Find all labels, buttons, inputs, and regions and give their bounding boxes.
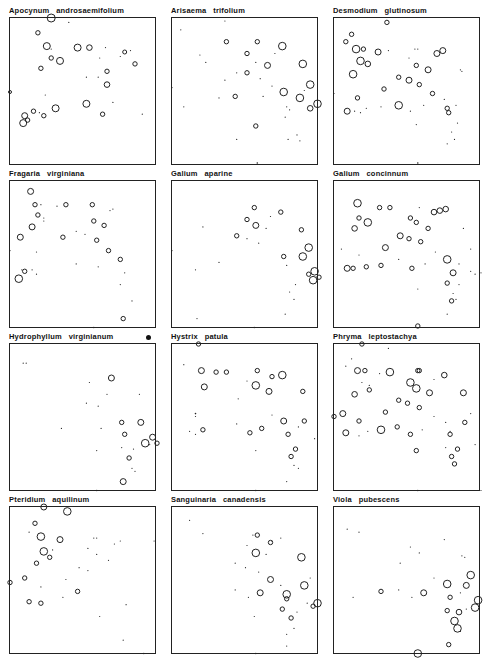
plot-area — [333, 343, 480, 491]
scatter-points — [10, 18, 157, 166]
scatter-points — [334, 344, 481, 492]
plot-area — [171, 506, 318, 654]
scatter-panel: Galium aparine — [171, 180, 318, 328]
panel-title: Desmodium glutinosum — [333, 6, 427, 15]
plot-area — [9, 506, 156, 654]
panel-title: Hystrix patula — [171, 332, 228, 341]
scatter-panel: Hystrix patula — [171, 343, 318, 491]
scatter-points — [10, 181, 157, 329]
panel-title: Sanguinaria canadensis — [171, 495, 266, 504]
scatter-panel: Pteridium aquilinum — [9, 506, 156, 654]
plot-area — [333, 506, 480, 654]
scatter-points — [10, 507, 157, 655]
scatter-panel: Desmodium glutinosum — [333, 17, 480, 165]
plot-area — [9, 180, 156, 328]
scatter-points — [172, 507, 319, 655]
panel-title: Galium concinnum — [333, 169, 408, 178]
scatter-panel: Viola pubescens — [333, 506, 480, 654]
scatter-points — [172, 181, 319, 329]
panel-title: Pteridium aquilinum — [9, 495, 89, 504]
plot-area — [9, 17, 156, 165]
plot-area — [171, 343, 318, 491]
panel-title: Galium aparine — [171, 169, 233, 178]
scatter-points — [172, 344, 319, 492]
scatter-panel: Arisaema trifolium — [171, 17, 318, 165]
stray-dot-mark — [146, 335, 151, 340]
scatter-points — [10, 344, 157, 492]
scatter-panel: Apocynum androsaemifolium — [9, 17, 156, 165]
scatter-points — [334, 181, 481, 329]
scatter-panel: Galium concinnum — [333, 180, 480, 328]
scatter-panel: Hydrophyllum virginianum — [9, 343, 156, 491]
plot-area — [333, 17, 480, 165]
scatter-points — [172, 18, 319, 166]
panel-title: Phryma leptostachya — [333, 332, 417, 341]
panel-title: Arisaema trifolium — [171, 6, 245, 15]
panel-title: Fragaria virginiana — [9, 169, 84, 178]
plot-area — [171, 180, 318, 328]
panel-title: Apocynum androsaemifolium — [9, 6, 124, 15]
panel-title: Hydrophyllum virginianum — [9, 332, 113, 341]
plot-area — [9, 343, 156, 491]
scatter-panel: Fragaria virginiana — [9, 180, 156, 328]
panel-title: Viola pubescens — [333, 495, 400, 504]
scatter-panel: Sanguinaria canadensis — [171, 506, 318, 654]
plot-area — [333, 180, 480, 328]
scatter-points — [334, 18, 481, 166]
scatter-panel: Phryma leptostachya — [333, 343, 480, 491]
plot-area — [171, 17, 318, 165]
scatter-points — [334, 507, 481, 655]
